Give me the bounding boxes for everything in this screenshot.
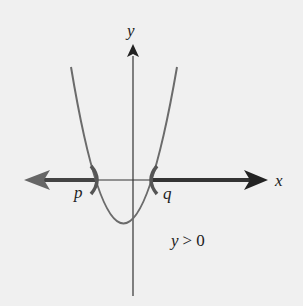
y-axis-label: y — [125, 21, 135, 40]
root-label-q: q — [163, 184, 172, 203]
solution-ray-left — [24, 170, 95, 190]
x-axis-label: x — [274, 171, 283, 190]
inequality-condition: y>0 — [169, 231, 205, 250]
root-label-p: p — [73, 183, 83, 202]
y-axis-arrow-icon — [127, 44, 139, 57]
parabola-diagram: y x p q y>0 — [0, 0, 303, 306]
parabola-curve — [71, 67, 177, 224]
y-axis — [127, 44, 139, 296]
